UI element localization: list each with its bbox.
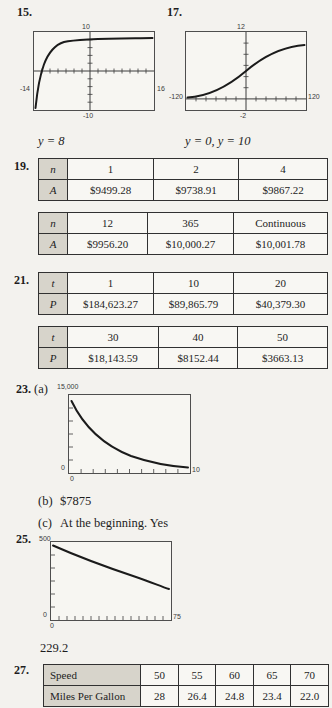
- table-cell: 1: [68, 159, 154, 180]
- graph-17-box: [185, 31, 307, 111]
- table-cell: $10,001.78: [234, 234, 328, 255]
- table-cell: t: [39, 273, 68, 294]
- table-cell: 2: [154, 159, 239, 180]
- graph-25-yorigin-label: 0: [43, 611, 47, 619]
- graph-15: 10 -14 16 -10: [33, 23, 153, 123]
- problem-17-number: 17.: [167, 5, 182, 20]
- graph-17-plot: [186, 32, 306, 110]
- problem-19-number: 19.: [14, 159, 29, 174]
- graph-15-ymax-label: 10: [82, 23, 90, 31]
- table-21-2: t 30 40 50 P $18,143.59 $8152.44 $3663.1…: [38, 326, 328, 369]
- table-row: n 1 2 4: [39, 159, 328, 180]
- graph-25-ymax-label: 500: [39, 535, 51, 543]
- table-row: A $9956.20 $10,000.27 $10,001.78: [39, 234, 328, 255]
- graph-15-plot: [34, 32, 154, 110]
- graph-25-plot: [51, 542, 171, 620]
- table-row: n 12 365 Continuous: [39, 213, 328, 234]
- graph-25-box: [50, 541, 172, 621]
- table-cell: Continuous: [234, 213, 328, 234]
- table-cell: $3663.13: [238, 348, 328, 369]
- graph-23-box: [68, 394, 191, 474]
- problem-21-number: 21.: [14, 273, 29, 288]
- table-cell: $184,623.27: [68, 294, 154, 315]
- table-19-1: n 1 2 4 A $9499.28 $9738.91 $9867.22: [38, 158, 328, 201]
- graph-25-xorigin-label: 0: [50, 622, 54, 630]
- table-row: t 1 10 20: [39, 273, 328, 294]
- graph-15-ymin-label: -10: [83, 112, 93, 120]
- table-27: Speed 50 55 60 65 70 Miles Per Gallon 28…: [43, 664, 329, 707]
- x-axis-ticks: [59, 616, 163, 620]
- problem-15-number: 15.: [17, 5, 32, 20]
- table-cell: P: [39, 294, 68, 315]
- table-cell: 55: [179, 665, 216, 686]
- table-cell: 60: [216, 665, 254, 686]
- table-cell: n: [39, 159, 68, 180]
- graph-25: 500 0 75 0: [50, 541, 170, 633]
- problem-23-number: 23.: [16, 382, 31, 397]
- table-cell: $9867.22: [239, 180, 328, 201]
- y-axis-ticks: [51, 555, 55, 607]
- y-axis-ticks: [69, 408, 73, 460]
- part-a-label: (a): [34, 382, 48, 397]
- table-cell: A: [39, 180, 68, 201]
- table-cell: $9956.20: [68, 234, 148, 255]
- table-cell: t: [39, 327, 68, 348]
- x-axis-ticks: [81, 469, 178, 473]
- answer-17: y = 0, y = 10: [185, 134, 250, 149]
- answer-15: y = 8: [38, 134, 64, 149]
- table-cell: Miles Per Gallon: [44, 686, 141, 707]
- part-b-answer: $7875: [60, 494, 91, 508]
- table-cell: $9738.91: [154, 180, 239, 201]
- graph-17-xmax-label: 120: [308, 93, 320, 101]
- table-cell: P: [39, 348, 68, 369]
- table-row: Speed 50 55 60 65 70: [44, 665, 329, 686]
- table-cell: 30: [68, 327, 159, 348]
- graph-15-xmax-label: 16: [157, 85, 165, 93]
- table-cell: 10: [154, 273, 234, 294]
- table-cell: $40,379.30: [234, 294, 328, 315]
- table-cell: 65: [254, 665, 291, 686]
- table-row: A $9499.28 $9738.91 $9867.22: [39, 180, 328, 201]
- table-cell: 50: [238, 327, 328, 348]
- table-cell: 40: [159, 327, 238, 348]
- table-cell: 26.4: [179, 686, 216, 707]
- answer-23b: (b)$7875: [38, 494, 91, 509]
- table-row: Miles Per Gallon 28 26.4 24.8 23.4 22.0: [44, 686, 329, 707]
- table-cell: 1: [68, 273, 154, 294]
- table-cell: 70: [291, 665, 329, 686]
- table-cell: 12: [68, 213, 148, 234]
- table-cell: 20: [234, 273, 328, 294]
- graph-23-plot: [69, 395, 190, 473]
- graph-23-xmax-label: 10: [192, 466, 200, 474]
- table-cell: 22.0: [291, 686, 329, 707]
- table-cell: Speed: [44, 665, 141, 686]
- curve: [72, 401, 189, 468]
- graph-25-xmax-label: 75: [173, 613, 181, 621]
- graph-17-ymax-label: 12: [237, 23, 245, 31]
- graph-17-ymin-label: -2: [240, 112, 246, 120]
- table-row: t 30 40 50: [39, 327, 328, 348]
- table-row: P $184,623.27 $89,865.79 $40,379.30: [39, 294, 328, 315]
- table-cell: 23.4: [254, 686, 291, 707]
- graph-15-xmin-label: -14: [2, 85, 30, 93]
- curve: [53, 546, 169, 590]
- graph-23-yorigin-label: 0: [61, 464, 65, 472]
- table-cell: 24.8: [216, 686, 254, 707]
- table-cell: 4: [239, 159, 328, 180]
- answers-page: 15. 10 -14 16 -10 y = 8 17. 12: [0, 0, 332, 708]
- table-cell: 50: [141, 665, 179, 686]
- table-row: P $18,143.59 $8152.44 $3663.13: [39, 348, 328, 369]
- graph-15-box: [33, 31, 155, 111]
- table-21-1: t 1 10 20 P $184,623.27 $89,865.79 $40,3…: [38, 272, 328, 315]
- table-cell: $89,865.79: [154, 294, 234, 315]
- table-cell: $9499.28: [68, 180, 154, 201]
- part-c-answer: At the beginning. Yes: [60, 516, 168, 530]
- table-cell: $18,143.59: [68, 348, 159, 369]
- table-cell: 28: [141, 686, 179, 707]
- graph-23: 15,000 0 10 0: [68, 394, 189, 486]
- table-cell: A: [39, 234, 68, 255]
- problem-27-number: 27.: [14, 663, 29, 678]
- graph-23-xorigin-label: 0: [70, 475, 74, 483]
- table-cell: $8152.44: [159, 348, 238, 369]
- graph-17: 12 -120 120 -2: [185, 23, 305, 123]
